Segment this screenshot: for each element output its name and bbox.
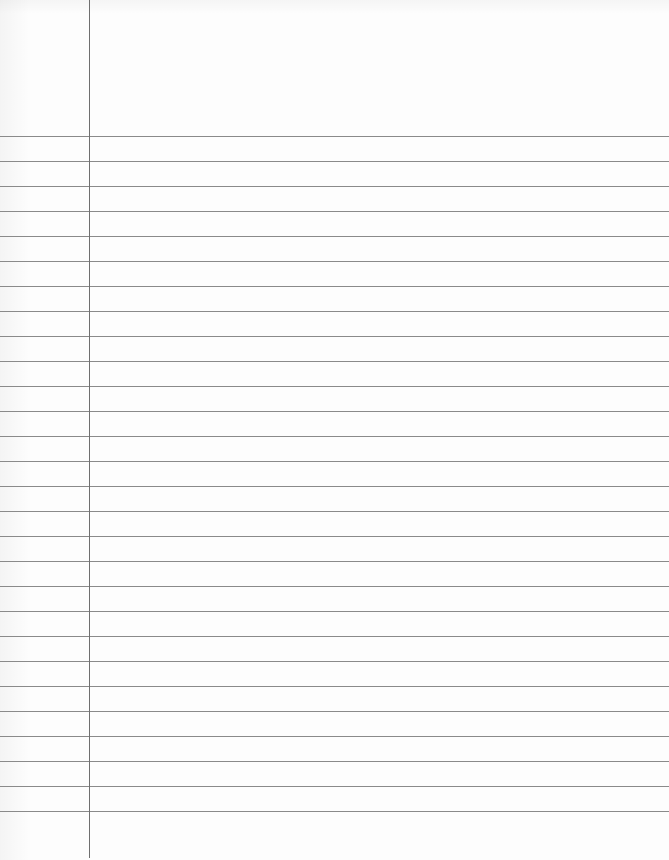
ruled-line [0,636,669,637]
ruled-line [0,286,669,287]
ruled-line [0,161,669,162]
ruled-line [0,186,669,187]
ruled-line [0,411,669,412]
ruled-line [0,211,669,212]
ruled-line [0,336,669,337]
ruled-line [0,236,669,237]
ruled-line [0,361,669,362]
ruled-lines [0,0,669,860]
ruled-line [0,436,669,437]
ruled-line [0,486,669,487]
ruled-line [0,536,669,537]
ruled-line [0,586,669,587]
ruled-line [0,661,669,662]
ruled-line [0,561,669,562]
ruled-line [0,811,669,812]
ruled-line [0,311,669,312]
ruled-line [0,136,669,137]
ruled-line [0,386,669,387]
margin-line [89,0,90,858]
ruled-line [0,511,669,512]
ruled-line [0,686,669,687]
ruled-line [0,611,669,612]
ruled-line [0,711,669,712]
ruled-line [0,786,669,787]
ruled-line [0,736,669,737]
ruled-line [0,461,669,462]
ruled-line [0,261,669,262]
lined-paper-sheet [0,0,669,860]
ruled-line [0,761,669,762]
